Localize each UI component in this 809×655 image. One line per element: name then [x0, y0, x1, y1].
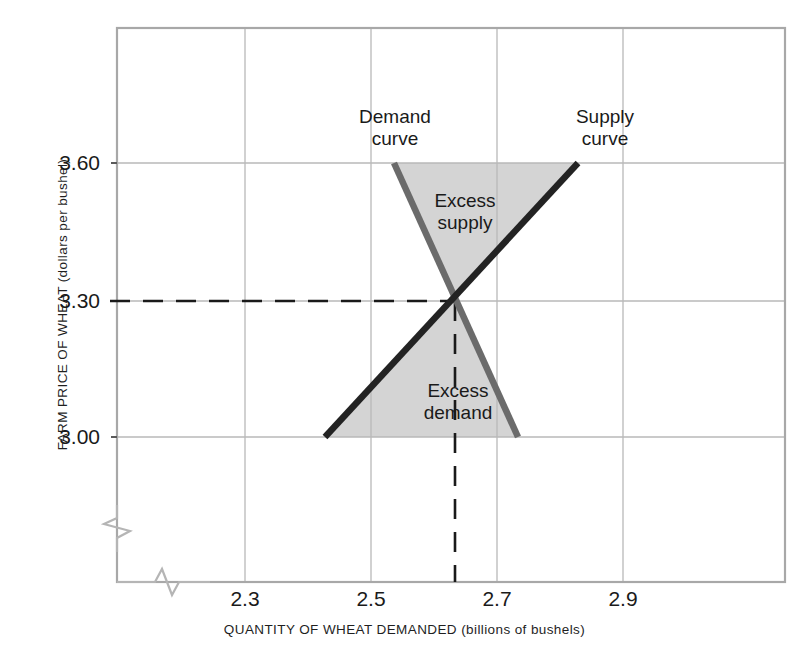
x-axis-title: QUANTITY OF WHEAT DEMANDED (billions of … [0, 622, 809, 637]
chart-figure: FARM PRICE OF WHEAT (dollars per bushel)… [0, 0, 809, 655]
ytick-label-3.00: 3.00 [22, 425, 100, 449]
xtick-label-2.9: 2.9 [583, 587, 663, 611]
excess-supply-label: Excess supply [395, 190, 535, 235]
ytick-label-3.30: 3.30 [22, 289, 100, 313]
xtick-label-2.3: 2.3 [205, 587, 285, 611]
demand-curve-label: Demand curve [320, 106, 470, 151]
ytick-label-3.60: 3.60 [22, 151, 100, 175]
supply-curve-label: Supply curve [530, 106, 680, 151]
xtick-label-2.5: 2.5 [331, 587, 411, 611]
excess-demand-label: Excess demand [388, 380, 528, 425]
xtick-label-2.7: 2.7 [457, 587, 537, 611]
supply-demand-chart [0, 0, 809, 655]
